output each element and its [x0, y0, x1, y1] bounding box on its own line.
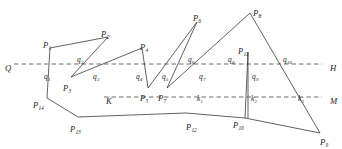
vertex-label-P1: P1	[43, 35, 51, 51]
intersection-label-q8: q8	[228, 49, 234, 65]
intersection-label-k1: k1	[197, 88, 203, 104]
intersection-label-q5: q5	[162, 66, 168, 82]
vertex-label-P11: P11	[238, 41, 248, 57]
vertex-label-P1-subscript: 1	[48, 45, 51, 51]
intersection-label-q3-subscript: 3	[97, 77, 99, 82]
intersection-label-q4-subscript: 4	[140, 77, 142, 82]
intersection-label-q7-subscript: 7	[203, 77, 205, 82]
intersection-label-q1: q1	[44, 66, 50, 82]
segment-P12-P13	[78, 113, 186, 117]
polygon-segment-group	[47, 13, 320, 133]
vertex-label-P6-subscript: 6	[198, 18, 201, 24]
vertex-label-P2: P2	[101, 24, 109, 40]
vertex-label-P9-subscript: 9	[325, 142, 328, 148]
segment-P13-P14	[47, 98, 78, 117]
intersection-label-q8-subscript: 8	[232, 60, 234, 65]
vertex-label-P14-subscript: 14	[38, 105, 43, 111]
axis-label-K: K	[106, 91, 112, 107]
intersection-label-k3: k3	[298, 88, 304, 104]
vertex-label-P13: P13	[70, 119, 81, 135]
vertex-label-P8: P8	[253, 3, 261, 19]
vertex-label-P10-subscript: 10	[238, 125, 243, 131]
diagram-canvas: QHKMP1P2P3P4P5P6P7P8P9P10P11P12P13P14q1q…	[0, 0, 342, 149]
vertex-label-P5-subscript: 5	[145, 98, 148, 104]
intersection-label-k2-subscript: 2	[254, 99, 256, 104]
segment-P8-P9	[250, 13, 320, 133]
intersection-label-q2: q2	[77, 49, 83, 65]
intersection-label-k1-subscript: 1	[200, 99, 202, 104]
intersection-label-q2-subscript: 2	[81, 60, 83, 65]
axis-label-Q-base: Q	[5, 63, 11, 73]
intersection-label-q9-subscript: 9	[256, 77, 258, 82]
segment-P10-P11	[245, 52, 248, 118]
vertex-label-P8-subscript: 8	[258, 13, 261, 19]
segment-P9-P10	[245, 118, 320, 133]
segment-P4-P5	[142, 48, 148, 88]
vertex-label-P12: P12	[186, 117, 197, 133]
vertex-label-P4-subscript: 4	[145, 47, 148, 53]
vertex-label-P11-subscript: 11	[243, 51, 248, 57]
intersection-label-q4: q4	[136, 66, 142, 82]
intersection-label-k3-subscript: 3	[301, 99, 303, 104]
axis-label-Q: Q	[5, 58, 11, 74]
intersection-label-q10-subscript: 10	[287, 60, 292, 65]
intersection-label-q1-subscript: 1	[48, 77, 50, 82]
intersection-label-q6-subscript: 6	[192, 60, 194, 65]
axis-label-K-base: K	[106, 96, 112, 106]
intersection-label-q7: q7	[199, 66, 205, 82]
vertex-label-P7: P7	[158, 88, 166, 104]
vertex-label-P3: P3	[63, 78, 71, 94]
vertex-label-P9: P9	[320, 132, 328, 148]
intersection-label-k2: k2	[251, 88, 257, 104]
intersection-label-q10: q10	[283, 49, 292, 65]
intersection-label-q6: q6	[188, 49, 194, 65]
vertex-label-P13-subscript: 13	[75, 129, 80, 135]
vertex-label-P10: P10	[233, 115, 244, 131]
axis-label-M: M	[330, 91, 337, 107]
vertex-label-P7-subscript: 7	[163, 98, 166, 104]
axis-label-H-base: H	[330, 63, 336, 73]
intersection-label-q9: q9	[252, 66, 258, 82]
vertex-label-P14: P14	[33, 95, 44, 111]
vertex-label-P3-subscript: 3	[68, 88, 71, 94]
vertex-label-P12-subscript: 12	[191, 127, 196, 133]
intersection-label-q5-subscript: 5	[166, 77, 168, 82]
vertex-label-P2-subscript: 2	[106, 34, 109, 40]
vertex-label-P6: P6	[193, 8, 201, 24]
vertex-label-P4: P4	[140, 37, 148, 53]
diagram-vector-layer	[0, 0, 342, 149]
axis-label-M-base: M	[330, 96, 337, 106]
vertex-label-P5: P5	[140, 88, 148, 104]
axis-label-H: H	[330, 58, 336, 74]
intersection-label-q3: q3	[93, 66, 99, 82]
